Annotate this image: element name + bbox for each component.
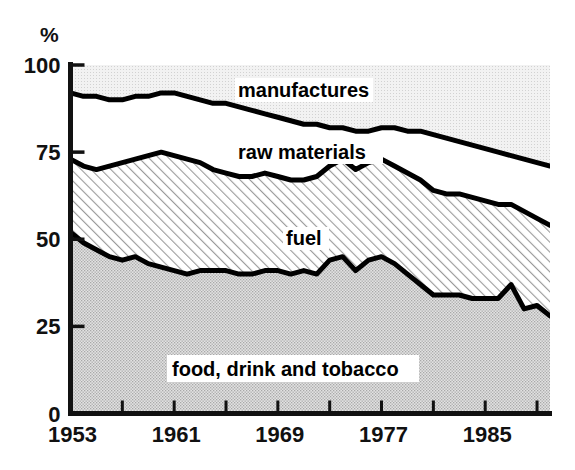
x-tick-label-1953: 1953 [48, 422, 97, 447]
annotation-food-drink-tobacco: food, drink and tobacco [172, 358, 399, 380]
annotation-raw-materials: raw materials [238, 141, 366, 163]
x-tick-label-1985: 1985 [463, 422, 512, 447]
y-tick-label-100: 100 [24, 53, 61, 78]
annotation-manufactures: manufactures [238, 79, 369, 101]
y-tick-label-50: 50 [36, 227, 60, 252]
chart-canvas: 0255075100 19531961196919771985 % manufa… [0, 0, 575, 470]
x-axis-tick-labels: 19531961196919771985 [48, 422, 512, 447]
y-axis-unit-label: % [40, 23, 59, 46]
x-tick-label-1969: 1969 [255, 422, 304, 447]
area-chart: 0255075100 19531961196919771985 % manufa… [0, 0, 575, 470]
annotation-fuel: fuel [286, 227, 322, 249]
x-tick-label-1961: 1961 [152, 422, 201, 447]
y-tick-label-75: 75 [36, 140, 60, 165]
x-tick-label-1977: 1977 [359, 422, 408, 447]
y-tick-label-25: 25 [36, 314, 60, 339]
y-axis-tick-labels: 0255075100 [24, 53, 61, 427]
